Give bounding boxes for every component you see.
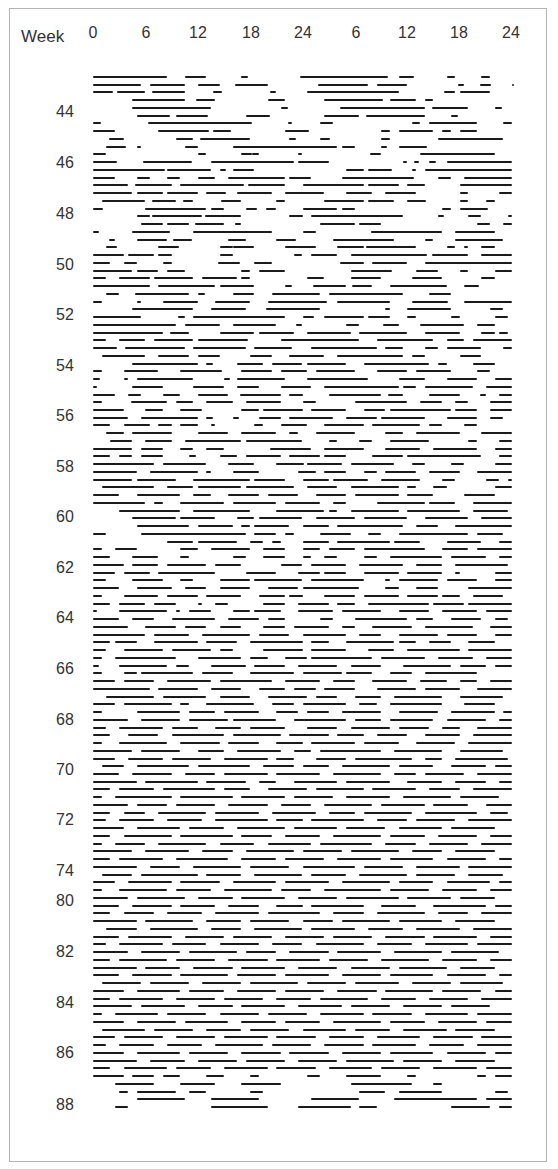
sleep-bar [320, 843, 372, 845]
sleep-bar [416, 866, 460, 868]
sleep-bar [93, 455, 110, 457]
sleep-bar [215, 812, 259, 814]
sleep-bar [93, 603, 110, 605]
sleep-bar [355, 696, 381, 698]
sleep-bar [145, 208, 206, 210]
sleep-bar [490, 680, 512, 682]
sleep-bar [499, 556, 512, 558]
sleep-bar [372, 680, 407, 682]
sleep-bar [154, 603, 176, 605]
sleep-bar [119, 603, 145, 605]
sleep-bar [324, 804, 372, 806]
sleep-bar [486, 804, 512, 806]
sleep-bar [303, 587, 360, 589]
sleep-bar [495, 618, 508, 620]
sleep-bar [399, 130, 434, 132]
sleep-bar [442, 610, 477, 612]
sleep-bar [429, 788, 460, 790]
sleep-bar [189, 951, 237, 953]
sleep-bar [93, 1060, 137, 1062]
sleep-bar [316, 432, 355, 434]
sleep-bar [289, 595, 302, 597]
sleep-bar [137, 378, 194, 380]
sleep-bar [119, 742, 167, 744]
sleep-bar [368, 169, 392, 171]
sleep-bar [503, 347, 512, 349]
sleep-bar [464, 424, 477, 426]
sleep-bar [137, 804, 168, 806]
sleep-bar [145, 440, 171, 442]
sleep-bar [333, 773, 381, 775]
sleep-bar [176, 804, 215, 806]
sleep-bar [259, 595, 285, 597]
sleep-bar [132, 231, 170, 233]
sleep-bar [141, 1005, 185, 1007]
sleep-bar [368, 200, 394, 202]
sleep-bar [128, 394, 141, 396]
sleep-bar [93, 688, 150, 690]
sleep-bar [495, 572, 512, 574]
sleep-bar [468, 866, 512, 868]
sleep-bar [228, 618, 259, 620]
sleep-bar [137, 239, 168, 241]
sleep-bar [289, 432, 298, 434]
sleep-bar [124, 812, 146, 814]
sleep-bar [342, 146, 355, 148]
sleep-bar [206, 595, 241, 597]
sleep-bar [211, 1106, 268, 1108]
sleep-bar [93, 850, 132, 852]
sleep-bar [499, 332, 508, 334]
sleep-bar [285, 533, 294, 535]
sleep-bar [109, 138, 124, 140]
sleep-bar [420, 324, 464, 326]
sleep-bar [399, 533, 469, 535]
sleep-bar [289, 734, 328, 736]
sleep-bar [246, 486, 294, 488]
sleep-bar [93, 1052, 124, 1054]
sleep-bar [359, 1091, 385, 1093]
sleep-bar [110, 440, 132, 442]
sleep-bar [93, 866, 137, 868]
sleep-bar [241, 967, 285, 969]
sleep-bar [303, 920, 334, 922]
sleep-bar [414, 161, 418, 163]
sleep-bar [206, 471, 210, 473]
sleep-bar [250, 355, 272, 357]
sleep-bar [93, 827, 124, 829]
sleep-bar [158, 424, 171, 426]
sleep-bar [364, 363, 429, 365]
sleep-bar [211, 1098, 259, 1100]
sleep-bar [285, 858, 324, 860]
sleep-bar [202, 672, 233, 674]
sleep-bar [276, 1036, 315, 1038]
sleep-bar [289, 394, 302, 396]
sleep-bar [477, 1075, 486, 1077]
sleep-bar [206, 1029, 241, 1031]
sleep-bar [241, 1052, 280, 1054]
sleep-bar [93, 672, 102, 674]
sleep-bar [137, 146, 141, 148]
sleep-bar [372, 262, 407, 264]
sleep-bar [180, 796, 232, 798]
sleep-bar [416, 432, 460, 434]
sleep-bar [490, 812, 507, 814]
sleep-bar [399, 967, 447, 969]
sleep-bar [412, 355, 425, 357]
sleep-bar [150, 84, 185, 86]
sleep-bar [447, 246, 456, 248]
sleep-bar [298, 471, 315, 473]
sleep-bar [206, 448, 223, 450]
sleep-bar [455, 409, 477, 411]
sleep-bar [337, 951, 381, 953]
sleep-bar [329, 1036, 364, 1038]
sleep-bar [351, 967, 390, 969]
sleep-bar [464, 703, 495, 705]
sleep-bar [294, 688, 316, 690]
sleep-bar [115, 796, 172, 798]
sleep-bar [303, 401, 316, 403]
sleep-bar [180, 448, 193, 450]
sleep-bar [93, 796, 102, 798]
sleep-bar [407, 781, 442, 783]
sleep-bar [385, 843, 416, 845]
sleep-bar [228, 959, 267, 961]
